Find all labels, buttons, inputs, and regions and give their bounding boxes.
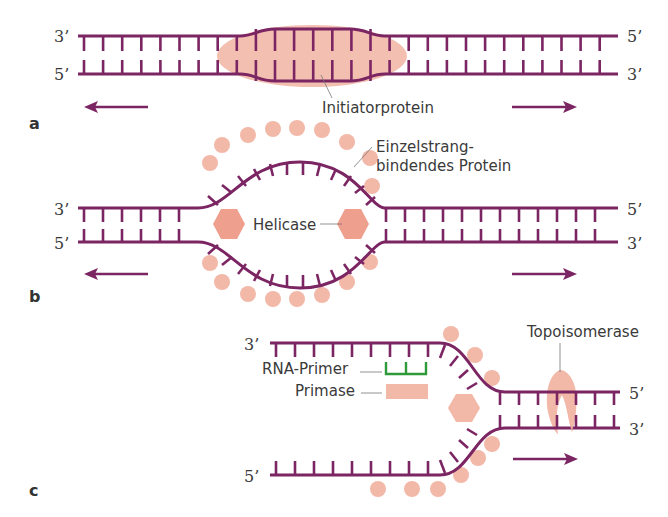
panel-b: Helicase Einzelstrang- bindendes Protein… [29,120,642,307]
end-label-5prime: 5’ [627,27,642,46]
helicase-shape [448,394,480,422]
arrow-right-icon [513,453,578,465]
panel-label: c [29,481,38,500]
end-label-3prime: 3’ [627,234,642,253]
end-label-5prime: 5’ [627,200,642,219]
ssb-label-line2: bindendes Protein [376,157,511,175]
end-label-3prime: 3’ [629,420,644,439]
panel-c: RNA-Primer Primase Topoisomerase 3’ 5’ 5… [29,323,644,500]
end-label-3prime: 3’ [54,27,69,46]
helicase-left-shape [213,209,245,239]
end-label-3prime: 3’ [54,200,69,219]
dna-replication-diagram: 3’ 5’ 5’ 3’ Initiatorprotein a Helicase … [0,0,668,517]
topoisomerase-front-arm [562,395,575,432]
initiatorprotein-label: Initiatorprotein [322,99,434,117]
end-label-3prime: 3’ [244,335,259,354]
arrow-right-icon [512,101,577,113]
primase-label: Primase [295,382,355,400]
helicase-label: Helicase [253,216,316,234]
end-label-5prime: 5’ [54,65,69,84]
arrow-left-icon [84,268,148,280]
arrow-right-icon [512,268,577,280]
topoisomerase-label: Topoisomerase [526,323,639,341]
rna-primer-shape [386,362,426,374]
ssb-label-line1: Einzelstrang- [376,138,474,156]
panel-label: b [29,287,40,306]
end-label-5prime: 5’ [244,467,259,486]
rna-primer-label: RNA-Primer [262,360,349,378]
strand-top [78,162,618,208]
end-label-3prime: 3’ [627,65,642,84]
panel-a: 3’ 5’ 5’ 3’ Initiatorprotein a [29,25,642,133]
strand-bottom [270,428,620,475]
end-label-5prime: 5’ [629,384,644,403]
primase-shape [386,384,428,399]
end-label-5prime: 5’ [54,234,69,253]
panel-label: a [29,114,40,133]
arrow-left-icon [84,101,148,113]
